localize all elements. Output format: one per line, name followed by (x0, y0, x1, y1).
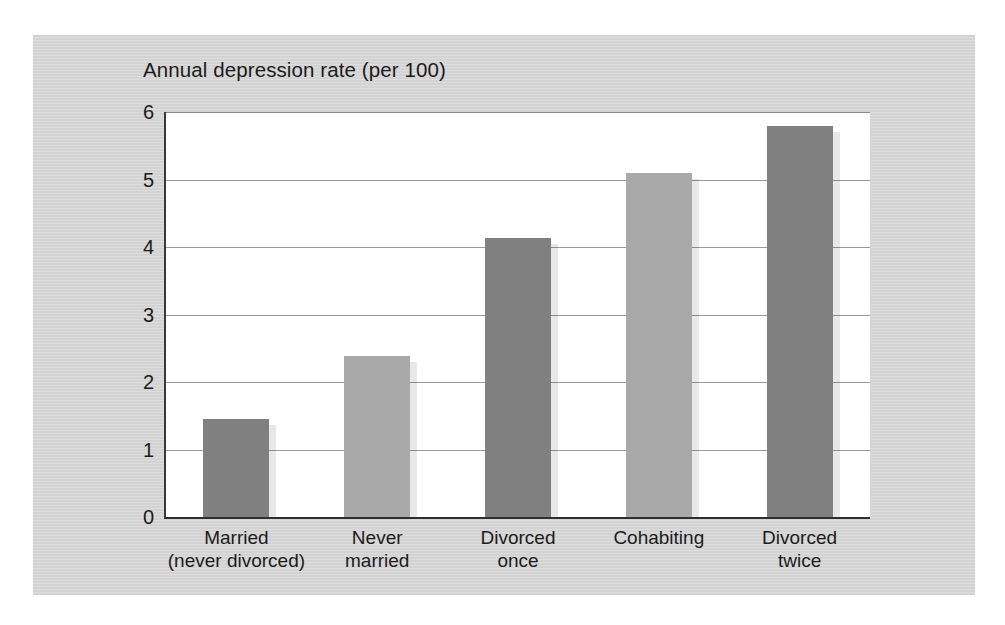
bars-layer (166, 112, 870, 517)
page-body-text-sliver (0, 0, 1005, 22)
x-label-line-2: once (481, 549, 556, 572)
chart-title: Annual depression rate (per 100) (143, 58, 446, 82)
y-tick-label-6: 6 (143, 102, 154, 122)
x-label-line-2: married (345, 549, 409, 572)
x-axis-label-1: Married(never divorced) (168, 526, 305, 572)
x-label-line-1: Married (204, 527, 268, 548)
x-label-line-2: twice (762, 549, 837, 572)
bar-shadow (269, 425, 276, 517)
x-axis-label-4: Cohabiting (613, 526, 704, 549)
bar-3 (485, 238, 551, 517)
bar-body (485, 238, 551, 517)
bar-body (203, 419, 269, 517)
bar-shadow (833, 132, 840, 518)
y-tick-label-4: 4 (143, 237, 154, 257)
x-label-line-1: Never (352, 527, 403, 548)
x-axis-label-2: Nevermarried (345, 526, 409, 572)
plot-area: 0123456 Married(never divorced)Nevermarr… (164, 112, 870, 519)
y-tick-label-1: 1 (143, 440, 154, 460)
bar-shadow (692, 179, 699, 517)
bar-body (344, 356, 410, 517)
y-tick-label-3: 3 (143, 305, 154, 325)
y-tick-label-5: 5 (143, 170, 154, 190)
x-axis-label-3: Divorcedonce (481, 526, 556, 572)
y-tick-label-2: 2 (143, 372, 154, 392)
x-axis-label-5: Divorcedtwice (762, 526, 837, 572)
bar-shadow (410, 362, 417, 517)
bar-2 (344, 356, 410, 517)
x-label-line-2: (never divorced) (168, 549, 305, 572)
x-label-line-1: Divorced (762, 527, 837, 548)
bar-body (767, 126, 833, 518)
bar-4 (626, 173, 692, 517)
x-label-line-1: Divorced (481, 527, 556, 548)
x-label-line-1: Cohabiting (613, 527, 704, 548)
y-tick-label-0: 0 (143, 507, 154, 527)
bar-body (626, 173, 692, 517)
bar-5 (767, 126, 833, 518)
figure-panel: Annual depression rate (per 100) 0123456… (33, 35, 975, 595)
bar-1 (203, 419, 269, 517)
bar-shadow (551, 244, 558, 517)
